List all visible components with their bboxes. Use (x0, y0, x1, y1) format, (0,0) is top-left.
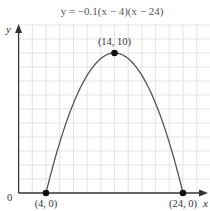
y-axis-label: y (5, 23, 11, 35)
point-label: (24, 0) (169, 198, 197, 210)
chart-title: y = −0.1(x − 4)(x − 24) (61, 5, 164, 18)
x-axis-arrow-icon (199, 190, 208, 197)
origin-label: 0 (7, 192, 12, 203)
point-label: (4, 0) (35, 198, 58, 210)
axes: x y 0 (5, 23, 208, 209)
x-axis-label: x (202, 197, 208, 209)
point-label: (14, 10) (98, 36, 132, 48)
data-point (111, 50, 118, 57)
data-point (180, 190, 187, 197)
parabola-chart: y = −0.1(x − 4)(x − 24) x y 0 (4, 0)(14,… (0, 0, 210, 211)
data-point (43, 190, 50, 197)
